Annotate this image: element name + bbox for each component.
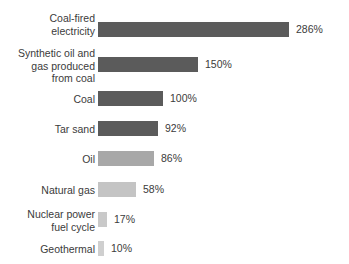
bar: [98, 121, 158, 136]
bar: [98, 22, 289, 37]
bar: [98, 182, 136, 197]
bar-value-label: 150%: [205, 57, 232, 72]
bar-value-label: 286%: [296, 22, 323, 37]
category-label: Synthetic oil and gas produced from coal: [0, 47, 95, 85]
bar-value-label: 86%: [161, 151, 182, 166]
bar: [98, 151, 154, 166]
category-label: Geothermal: [0, 243, 95, 256]
bar-value-label: 58%: [143, 182, 164, 197]
category-label: Tar sand: [0, 123, 95, 136]
category-label: Natural gas: [0, 184, 95, 197]
bar-value-label: 17%: [114, 212, 135, 227]
bar: [98, 91, 163, 106]
category-label: Oil: [0, 153, 95, 166]
category-label: Coal: [0, 93, 95, 106]
bar: [98, 57, 198, 72]
bar: [98, 241, 104, 256]
bar: [98, 212, 107, 227]
bar-value-label: 92%: [165, 121, 186, 136]
bar-value-label: 10%: [111, 241, 132, 256]
category-label: Coal-fired electricity: [0, 12, 95, 37]
category-label: Nuclear power fuel cycle: [0, 208, 95, 233]
bar-value-label: 100%: [170, 91, 197, 106]
bar-chart: Coal-fired electricity 286% Synthetic oi…: [0, 0, 349, 264]
